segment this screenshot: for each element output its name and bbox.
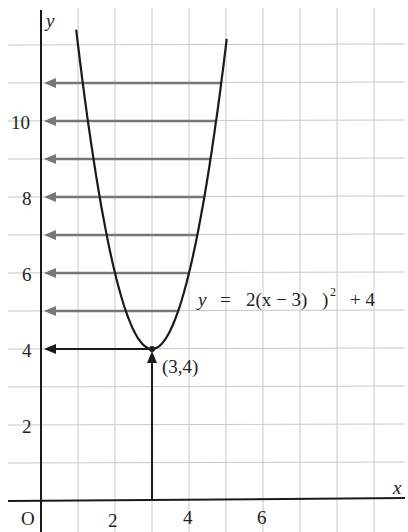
axes bbox=[8, 10, 405, 532]
y-tick-4: 4 bbox=[22, 340, 32, 361]
horizontal-arrows bbox=[44, 78, 221, 316]
svg-text:+ 4: + 4 bbox=[350, 289, 375, 310]
y-tick-6: 6 bbox=[22, 264, 32, 285]
origin-label: O bbox=[21, 508, 35, 529]
x-tick-4: 4 bbox=[183, 507, 193, 528]
grid-line-horizontal bbox=[8, 462, 405, 463]
vertex-label: (3,4) bbox=[162, 356, 198, 378]
vertex-arrows bbox=[44, 344, 157, 500]
y-tick-10: 10 bbox=[11, 112, 30, 133]
arrow-left-icon bbox=[44, 78, 56, 88]
equation-paren: ) bbox=[322, 289, 328, 311]
grid-line-horizontal bbox=[8, 386, 405, 387]
arrow-left-icon bbox=[44, 306, 56, 316]
svg-text:y: y bbox=[196, 289, 207, 310]
arrow-left-icon bbox=[44, 154, 56, 164]
y-axis-label: y bbox=[44, 10, 55, 31]
arrow-left-icon bbox=[44, 268, 56, 278]
vertex-point bbox=[149, 346, 155, 352]
arrow-left-icon bbox=[44, 192, 56, 202]
chart: y x O 2 4 6 2 4 6 8 10 (3,4) y = 2(x − 3… bbox=[0, 0, 408, 532]
x-tick-2: 2 bbox=[108, 510, 118, 531]
arrow-left-icon bbox=[44, 116, 56, 126]
svg-text:2(x − 3): 2(x − 3) bbox=[246, 289, 307, 311]
y-tick-2: 2 bbox=[22, 416, 32, 437]
grid-line-horizontal bbox=[8, 44, 405, 45]
x-tick-6: 6 bbox=[257, 507, 267, 528]
grid-line-horizontal bbox=[8, 424, 405, 425]
svg-text:=: = bbox=[220, 289, 231, 310]
arrow-left-icon bbox=[44, 344, 56, 354]
svg-text:2: 2 bbox=[330, 285, 336, 299]
arrow-left-icon bbox=[44, 230, 56, 240]
y-tick-8: 8 bbox=[22, 188, 32, 209]
plot-area: y x O 2 4 6 2 4 6 8 10 (3,4) y = 2(x − 3… bbox=[0, 0, 408, 532]
grid bbox=[8, 8, 405, 532]
arrow-up-icon bbox=[147, 351, 157, 363]
equation-label: y = 2(x − 3) ) 2 + 4 bbox=[196, 285, 375, 311]
x-axis-label: x bbox=[392, 477, 402, 498]
x-axis bbox=[8, 498, 405, 501]
